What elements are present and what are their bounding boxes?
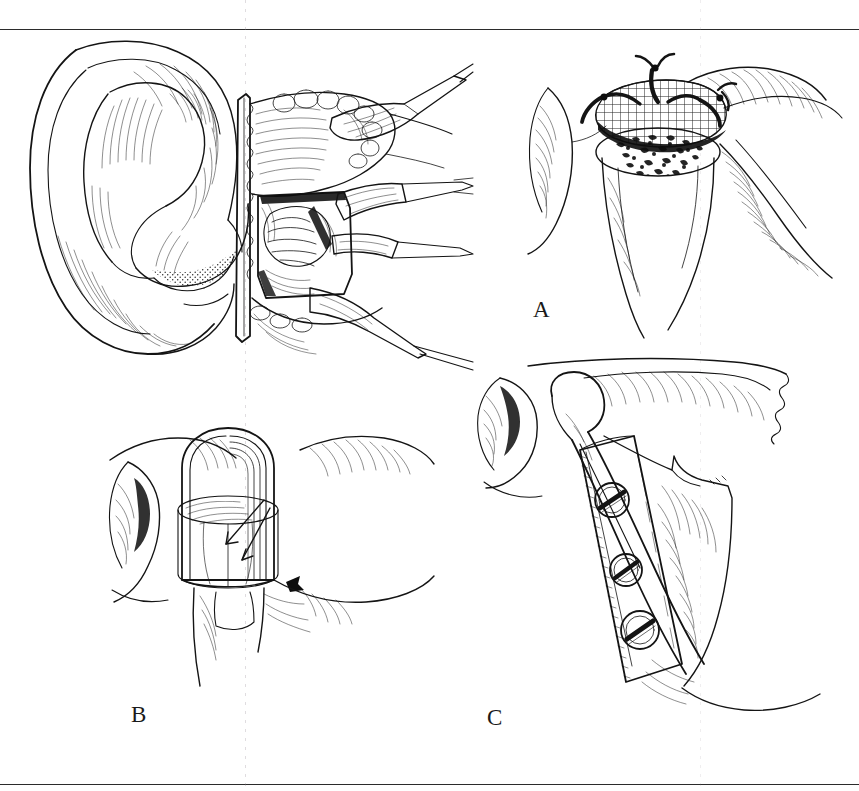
soft-tissue-right-drape <box>720 140 832 278</box>
illustration-page: A B C <box>0 0 859 791</box>
parotid-margin <box>250 298 382 354</box>
incision-flap-edge <box>236 94 253 342</box>
auricle-antihelix <box>84 83 205 279</box>
screw-3 <box>621 611 659 649</box>
auricle-concha <box>136 250 236 291</box>
retractor-upper <box>330 64 473 140</box>
panel-main-tmj-exposure <box>14 36 474 366</box>
joint-hatching <box>262 204 337 295</box>
mandibular-ramus <box>604 436 820 710</box>
ear-remnant-left <box>110 462 169 602</box>
panel-label-a: A <box>533 298 550 321</box>
retractor-blade-lower <box>332 234 473 258</box>
retractor-blade-mid <box>336 178 473 220</box>
auricle-shading <box>58 64 218 346</box>
ramus-shading <box>658 486 716 658</box>
top-rule <box>0 29 859 30</box>
fat-lobules <box>273 90 382 168</box>
condylar-prosthesis <box>551 372 704 674</box>
panel-b-mesh-tray-seating <box>104 404 434 704</box>
bottom-rule <box>0 784 859 785</box>
zygomatic-arch <box>528 359 789 444</box>
retractor-hook-bottom <box>310 288 473 370</box>
condylar-neck <box>602 158 714 338</box>
soft-tissue-left <box>528 88 606 254</box>
panel-c-plate-fixation <box>466 352 856 722</box>
panel-label-c: C <box>487 706 503 729</box>
ramus-below <box>193 588 310 686</box>
panel-label-b: B <box>131 703 147 726</box>
panel-a-mesh-graft-sutured <box>492 48 852 338</box>
surgical-field <box>236 64 473 370</box>
ear-remnant-left-c <box>478 378 542 497</box>
temporal-fascia-edge <box>390 114 452 134</box>
